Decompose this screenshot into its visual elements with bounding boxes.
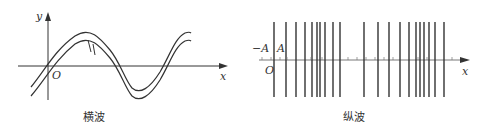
wave-diagram: y O x −A A O x <box>0 0 484 131</box>
x-axis-label: x <box>462 65 469 78</box>
x-axis-arrow-icon <box>460 57 470 63</box>
compression-lines <box>274 22 444 97</box>
origin-label: O <box>265 64 274 77</box>
positive-amplitude-label: A <box>276 42 285 55</box>
element-marker <box>93 44 95 55</box>
negative-amplitude-label: −A <box>252 42 269 55</box>
y-axis-arrow-icon <box>45 12 51 21</box>
longitudinal-wave-figure: −A A O x <box>252 22 470 97</box>
element-marker <box>88 40 91 52</box>
transverse-caption: 横波 <box>83 108 105 124</box>
origin-label: O <box>52 69 61 82</box>
x-axis-label: x <box>220 70 227 83</box>
y-axis-label: y <box>35 10 43 23</box>
longitudinal-caption: 纵波 <box>343 108 365 124</box>
x-axis-arrow-icon <box>219 63 228 69</box>
transverse-wave-figure: y O x <box>18 10 228 100</box>
